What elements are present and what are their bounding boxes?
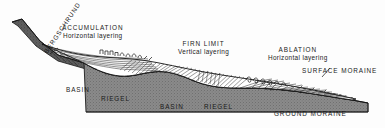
label-ablation-sub: Horizontal layering [268,54,328,62]
label-firn-limit-sub: Vertical layering [178,48,229,56]
label-basin-2: BASIN [160,103,184,111]
label-ground-moraine: GROUND MORAINE [274,110,347,118]
label-ablation: ABLATION Horizontal layering [268,46,328,62]
label-surface-moraine: SURFACE MORAINE [302,67,377,75]
label-accumulation-sub: Horizontal layering [62,32,123,40]
glacier-diagram-svg [0,0,385,128]
label-accumulation-title: ACCUMULATION [62,24,123,32]
label-ablation-title: ABLATION [268,46,328,54]
label-riegel-2: RIEGEL [204,103,233,111]
label-riegel-1: RIEGEL [101,95,130,103]
label-basin-1: BASIN [66,86,90,94]
label-firn-limit-title: FIRN LIMIT [178,40,229,48]
glacier-cross-section-figure: BERGSCHRUND ACCUMULATION Horizontal laye… [0,0,385,128]
label-accumulation: ACCUMULATION Horizontal layering [62,24,123,40]
label-firn-limit: FIRN LIMIT Vertical layering [178,40,229,56]
